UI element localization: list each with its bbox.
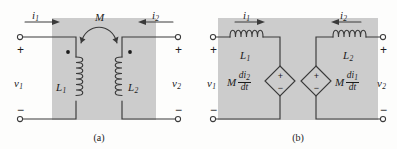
label-current-i2: i2 [340, 6, 347, 23]
label-source-left-expression: M di2 dt [227, 71, 251, 93]
sign-minus-v1: − [17, 104, 24, 116]
label-voltage-v2: v2 [172, 74, 181, 91]
sign-minus-v2: − [175, 104, 182, 116]
terminal-bottom-right [380, 116, 385, 121]
label-source-right-expression: M di1 dt [335, 71, 359, 93]
caption-a: (a) [0, 132, 198, 143]
panel-b: i1 i2 L1 L2 M di2 dt + − + − M di1 [199, 0, 397, 149]
panel-a-background [52, 18, 156, 120]
panel-b-background [218, 18, 378, 120]
label-voltage-v1: v1 [207, 74, 216, 91]
sign-minus-v1: − [210, 104, 217, 116]
terminal-bottom-right [175, 116, 180, 121]
label-voltage-v1: v1 [14, 74, 23, 91]
terminal-top-left [210, 34, 215, 39]
terminal-bottom-left [210, 116, 215, 121]
sign-plus-v2: + [380, 44, 387, 56]
source-left-minus: − [276, 83, 285, 93]
figure-mutual-inductance: i1 i2 M L1 L2 + − v1 + − v2 (a) [0, 0, 397, 149]
label-voltage-v2: v2 [377, 74, 386, 91]
terminal-top-right [175, 34, 180, 39]
terminal-bottom-left [17, 116, 22, 121]
label-current-i1: i1 [32, 6, 39, 23]
source-right-minus: − [312, 83, 321, 93]
label-current-i2: i2 [152, 6, 159, 23]
sign-plus-v1: + [210, 44, 217, 56]
label-inductor-l1: L1 [240, 46, 250, 63]
polarity-dot-l2 [128, 50, 132, 54]
source-right-plus: + [312, 71, 321, 81]
caption-b: (b) [199, 132, 397, 143]
terminal-top-right [380, 34, 385, 39]
sign-minus-v2: − [380, 104, 387, 116]
label-inductor-l2: L2 [128, 78, 138, 95]
label-inductor-l2: L2 [343, 46, 353, 63]
label-current-i1: i1 [243, 6, 250, 23]
sign-plus-v2: + [175, 44, 182, 56]
terminal-top-left [17, 34, 22, 39]
source-left-plus: + [276, 71, 285, 81]
polarity-dot-l1 [66, 50, 70, 54]
label-mutual-m: M [95, 8, 104, 24]
sign-plus-v1: + [17, 44, 24, 56]
label-inductor-l1: L1 [56, 78, 66, 95]
panel-a: i1 i2 M L1 L2 + − v1 + − v2 (a) [0, 0, 198, 149]
